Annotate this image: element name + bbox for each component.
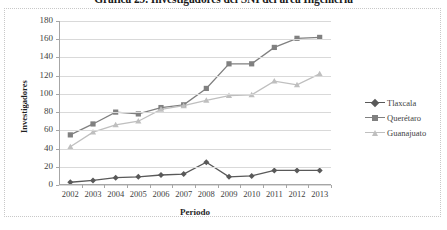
chart-plot-frame: Investigadores 020406080100120140160180 … xyxy=(4,8,441,217)
x-tickmark xyxy=(104,185,105,188)
square-marker-icon xyxy=(365,113,385,122)
chart-legend: TlaxcalaQuerétaroGuanajuato xyxy=(365,95,443,140)
x-tickmark xyxy=(82,185,83,188)
x-tickmark xyxy=(218,185,219,188)
y-tickmark xyxy=(56,185,59,186)
x-tickmark xyxy=(286,185,287,188)
y-axis-tick-label: 0 xyxy=(9,180,53,189)
chart-title: Gráfica 29. Investigadores del SNI del á… xyxy=(0,0,447,5)
y-axis-tick-labels: 020406080100120140160180 xyxy=(5,21,59,185)
legend-item-guanajuato[interactable]: Guanajuato xyxy=(365,125,443,140)
x-tickmark xyxy=(150,185,151,188)
x-axis-tick-label: 2013 xyxy=(305,189,335,199)
x-tickmark xyxy=(331,185,332,188)
x-axis-tickmarks xyxy=(59,21,331,185)
y-axis-tick-label: 100 xyxy=(9,89,53,98)
x-tickmark xyxy=(127,185,128,188)
y-axis-tick-label: 80 xyxy=(9,107,53,116)
legend-item-querétaro[interactable]: Querétaro xyxy=(365,110,443,125)
x-tickmark xyxy=(195,185,196,188)
x-tickmark xyxy=(240,185,241,188)
triangle-marker-icon xyxy=(365,128,385,137)
x-tickmark xyxy=(308,185,309,188)
x-tickmark xyxy=(263,185,264,188)
legend-label: Tlaxcala xyxy=(387,98,416,108)
chart-screenshot: Gráfica 29. Investigadores del SNI del á… xyxy=(0,0,447,230)
legend-label: Guanajuato xyxy=(387,128,426,138)
plot-area xyxy=(59,21,331,185)
y-axis-tick-label: 20 xyxy=(9,162,53,171)
legend-item-tlaxcala[interactable]: Tlaxcala xyxy=(365,95,443,110)
diamond-marker-icon xyxy=(365,98,385,107)
x-tickmark xyxy=(172,185,173,188)
y-axis-tick-label: 140 xyxy=(9,52,53,61)
y-axis-tick-label: 160 xyxy=(9,34,53,43)
y-axis-tick-label: 60 xyxy=(9,125,53,134)
y-axis-tick-label: 180 xyxy=(9,16,53,25)
y-axis-tick-label: 120 xyxy=(9,71,53,80)
y-axis-tick-label: 40 xyxy=(9,144,53,153)
x-axis-title: Periodo xyxy=(59,207,331,217)
legend-label: Querétaro xyxy=(387,113,421,123)
x-axis-tick-labels: 2002200320042005200620072008200920102011… xyxy=(59,189,331,203)
